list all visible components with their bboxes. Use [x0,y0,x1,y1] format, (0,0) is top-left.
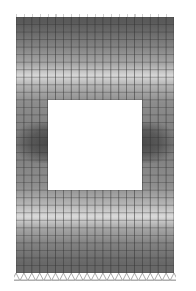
plate-mesh [16,17,174,273]
square-opening [48,100,143,190]
fixed-supports [14,273,176,281]
fe-contour-plot [0,0,196,291]
